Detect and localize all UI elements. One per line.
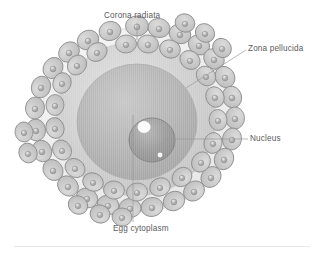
nucleus-shape xyxy=(129,118,175,162)
footer-divider xyxy=(14,246,310,247)
label-corona-radiata: Corona radiata xyxy=(104,11,160,21)
label-zona-pellucida: Zona pellucida xyxy=(248,44,303,54)
label-nucleus: Nucleus xyxy=(250,134,281,144)
egg-cell-diagram xyxy=(0,0,323,256)
corona-cell xyxy=(46,94,65,116)
egg-cytoplasm-inner xyxy=(77,64,197,180)
label-egg-cytoplasm: Egg cytoplasm xyxy=(113,224,169,234)
